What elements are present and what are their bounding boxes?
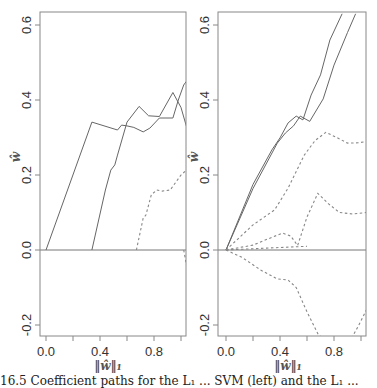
- y-tick-label: 0.4: [19, 91, 34, 109]
- coefficient-path-coef-1: [226, 14, 342, 250]
- plot-frame: [218, 12, 366, 336]
- coefficient-path-coef-5: [226, 250, 322, 338]
- series-group: [226, 14, 366, 338]
- x-axis-label: ‖ŵ‖₁: [94, 359, 122, 373]
- coefficient-path-coef-3: [136, 170, 186, 250]
- y-tick-label: 0.6: [197, 16, 212, 34]
- y-tick-label: 0.4: [197, 91, 212, 109]
- x-tick-label: 0.8: [145, 344, 163, 359]
- coefficient-path-coef-7: [352, 310, 367, 338]
- coefficient-path-coef-3: [226, 132, 366, 250]
- y-tick-label: 0.6: [19, 16, 34, 34]
- y-tick-label: -0.2: [197, 314, 212, 336]
- y-axis-label: ŵ: [187, 151, 201, 162]
- x-tick-label: 0.0: [37, 344, 55, 359]
- y-tick-label: 0.2: [197, 166, 212, 184]
- x-tick-label: 0.4: [271, 344, 289, 359]
- right-panel: -0.20.00.20.40.60.00.40.8ŵ‖ŵ‖₁: [187, 12, 366, 373]
- x-tick-label: 0.8: [325, 344, 343, 359]
- y-tick-label: 0.0: [197, 241, 212, 259]
- x-axis-label: ‖ŵ‖₁: [274, 359, 302, 373]
- x-tick-label: 0.4: [91, 344, 109, 359]
- y-tick-label: 0.2: [19, 166, 34, 184]
- y-tick-label: 0.0: [19, 241, 34, 259]
- coefficient-path-coef-2: [92, 93, 186, 251]
- y-tick-label: -0.2: [19, 314, 34, 336]
- coefficient-path-coef-2: [226, 14, 356, 250]
- y-axis-label: ŵ: [9, 151, 23, 162]
- series-group: [46, 81, 186, 265]
- left-panel: -0.20.00.20.40.60.00.40.8ŵ‖ŵ‖₁: [9, 12, 186, 373]
- x-tick-label: 0.0: [217, 344, 235, 359]
- figure-caption: 16.5 Coefficient paths for the L₁ ... SV…: [0, 374, 377, 388]
- plot-frame: [40, 12, 186, 336]
